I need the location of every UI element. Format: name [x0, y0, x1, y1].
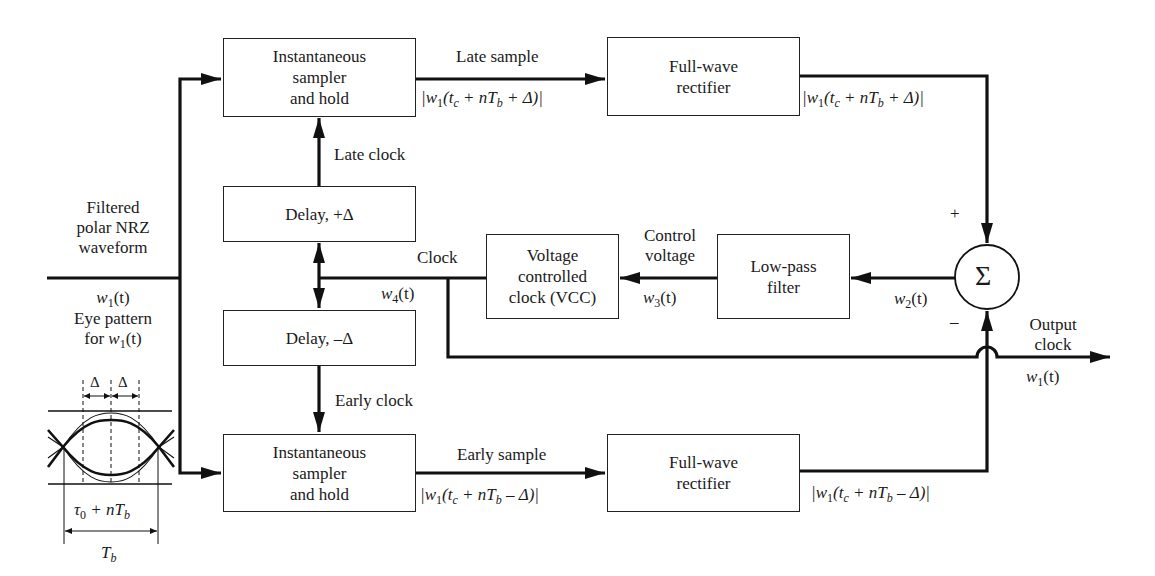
input-line3: waveform [58, 238, 168, 258]
eye-pattern-title: Eye pattern for w1(t) [48, 309, 178, 354]
delay-minus-block: Delay, –Δ [223, 310, 416, 366]
input-split-bottom [180, 278, 221, 473]
rectifier-early-block: Full-wave rectifier [607, 434, 800, 512]
input-signal-label: Filtered polar NRZ waveform [58, 198, 168, 258]
late-clock-label: Late clock [334, 145, 405, 165]
sampler-late-line2: sampler [273, 67, 366, 88]
delay-minus-label: Delay, –Δ [286, 328, 353, 349]
eye-tau-label: τ0 + nTb [74, 500, 130, 525]
delay-plus-label: Delay, +Δ [285, 204, 354, 225]
delay-plus-block: Delay, +Δ [223, 186, 416, 242]
lowpass-filter-block: Low-pass filter [717, 234, 850, 319]
control-voltage-label: Control voltage [632, 226, 708, 266]
clock-symbol: w4(t) [381, 284, 414, 309]
rectifier-late-block: Full-wave rectifier [607, 37, 800, 116]
sampler-late-line3: and hold [273, 88, 366, 109]
eye-period-label: Tb [101, 543, 116, 568]
late-sample-label: Late sample [456, 47, 539, 67]
rectifier-late-line1: Full-wave [669, 56, 738, 77]
sampler-late-line1: Instantaneous [273, 46, 366, 67]
output-clock-label: Output clock [1018, 315, 1088, 355]
early-sample-expr: |w1(tc + nTb – Δ)| [420, 485, 539, 510]
late-rect-out-expr: |w1(tc + nTb + Δ)| [802, 88, 924, 113]
summer-sigma-symbol: Σ [975, 262, 991, 290]
control-voltage-symbol: w3(t) [643, 288, 676, 313]
lpf-line2: filter [750, 277, 816, 298]
early-rect-to-sum [800, 311, 987, 471]
summer-plus-sign: + [950, 204, 960, 224]
vcc-line1: Voltage [509, 245, 596, 266]
vcc-block: Voltage controlled clock (VCC) [486, 234, 619, 319]
eye-delta-right: Δ [118, 372, 128, 392]
vcc-line3: clock (VCC) [509, 287, 596, 308]
early-rect-out-expr: |w1(tc + nTb – Δ)| [811, 483, 930, 508]
early-sample-label: Early sample [457, 445, 546, 465]
error-symbol: w2(t) [894, 289, 927, 314]
sampler-early-block: Instantaneous sampler and hold [223, 434, 416, 512]
eye-delta-left: Δ [90, 372, 100, 392]
rectifier-late-line2: rectifier [669, 77, 738, 98]
late-sample-expr: |w1(tc + nTb + Δ)| [421, 88, 543, 113]
sampler-early-line2: sampler [273, 463, 366, 484]
sampler-early-line1: Instantaneous [273, 442, 366, 463]
early-clock-label: Early clock [335, 391, 413, 411]
output-clock-symbol: w1(t) [1026, 367, 1059, 392]
input-split-top [180, 79, 221, 278]
rectifier-early-line1: Full-wave [669, 452, 738, 473]
clock-label: Clock [417, 248, 458, 268]
lpf-line1: Low-pass [750, 256, 816, 277]
input-line1: Filtered [58, 198, 168, 218]
sampler-late-block: Instantaneous sampler and hold [223, 38, 416, 117]
input-line2: polar NRZ [58, 218, 168, 238]
vcc-line2: controlled [509, 266, 596, 287]
summer-minus-sign: – [950, 312, 959, 332]
sampler-early-line3: and hold [273, 484, 366, 505]
rectifier-early-line2: rectifier [669, 473, 738, 494]
